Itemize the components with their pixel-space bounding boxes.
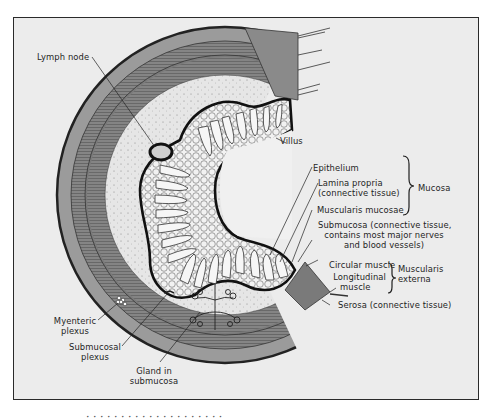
label-villus: Villus — [280, 136, 303, 146]
label-circular-muscle: Circular muscle — [329, 260, 395, 270]
label-submucosa: Submucosa (connective tissue, contains m… — [318, 220, 450, 250]
label-submucosa-line1: Submucosa (connective tissue, — [318, 220, 450, 230]
label-submucosal-plexus-line2: plexus — [66, 352, 124, 362]
figure-caption-cut: · · · · · · · · · · · · · · · · · · · · — [86, 411, 222, 420]
group-label-muscularis-line2: externa — [398, 274, 443, 284]
label-gland-line1: Gland in — [126, 366, 182, 376]
label-epithelium: Epithelium — [313, 163, 359, 173]
label-gland-line2: submucosa — [126, 376, 182, 386]
label-gland-in-submucosa: Gland in submucosa — [126, 366, 182, 386]
label-muscularis-mucosae: Muscularis mucosae — [317, 205, 404, 215]
label-serosa: Serosa (connective tissue) — [338, 300, 451, 310]
group-label-muscularis-line1: Muscularis — [398, 264, 443, 274]
group-label-muscularis-externa: Muscularis externa — [398, 264, 443, 284]
label-myenteric-plexus: Myenteric plexus — [48, 316, 102, 336]
label-longitudinal-muscle: Longitudinal muscle — [330, 272, 386, 292]
label-lamina-propria-line1: Lamina propria — [318, 178, 400, 188]
label-longitudinal-line1: Longitudinal — [330, 272, 386, 282]
label-longitudinal-line2: muscle — [330, 282, 386, 292]
label-lamina-propria-line2: (connective tissue) — [318, 188, 400, 198]
label-submucosa-line2: contains most major nerves — [318, 230, 450, 240]
label-myenteric-line2: plexus — [48, 326, 102, 336]
label-submucosal-plexus-line1: Submucosal — [66, 342, 124, 352]
mucosa-brace — [403, 156, 414, 215]
label-myenteric-line1: Myenteric — [48, 316, 102, 326]
label-submucosal-plexus: Submucosal plexus — [66, 342, 124, 362]
group-label-mucosa: Mucosa — [418, 183, 450, 193]
label-lamina-propria: Lamina propria (connective tissue) — [318, 178, 400, 198]
label-lymph-node: Lymph node — [37, 52, 89, 62]
lymph-node — [150, 144, 172, 160]
label-submucosa-line3: and blood vessels) — [318, 240, 450, 250]
